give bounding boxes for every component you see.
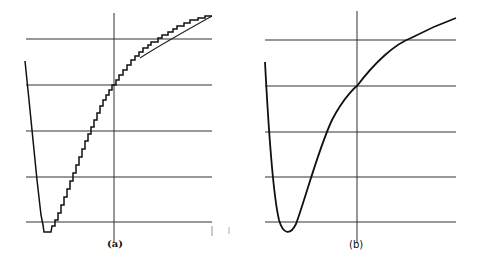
figure-canvas <box>0 0 478 268</box>
panel-a-label: (a) <box>107 238 123 249</box>
panel-a-gridlines <box>26 39 212 222</box>
panel-b-smooth-curve <box>265 18 456 232</box>
panel-a <box>25 13 229 243</box>
panel-a-staircase-curve <box>25 16 212 232</box>
panel-a-smooth-curve <box>140 16 212 58</box>
panel-b <box>265 11 456 243</box>
panel-b-label: (b) <box>349 239 363 250</box>
panel-b-gridlines <box>265 40 456 222</box>
